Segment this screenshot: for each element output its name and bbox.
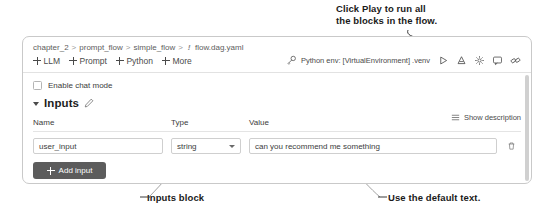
show-description-label: Show description	[464, 113, 521, 122]
yaml-file-icon: !	[186, 42, 192, 53]
share-icon[interactable]	[510, 55, 521, 66]
add-prompt-button[interactable]: Prompt	[69, 56, 107, 66]
toolbar-row: LLM Prompt Python More	[33, 55, 521, 66]
input-type-select[interactable]: string	[171, 138, 241, 154]
breadcrumb-item-chapter[interactable]: chapter_2	[33, 42, 69, 53]
add-input-button[interactable]: Add input	[33, 162, 106, 179]
plus-icon	[162, 57, 170, 65]
key-icon	[286, 55, 297, 66]
chat-icon[interactable]	[492, 55, 503, 66]
inputs-table-header: Name Type Value	[33, 118, 521, 131]
plus-icon	[69, 57, 77, 65]
add-python-label: Python	[126, 56, 152, 66]
settings-icon[interactable]	[474, 55, 485, 66]
breadcrumb-separator: >	[178, 42, 183, 53]
environment-group: Python env: [VirtualEnvironment] .venv	[286, 55, 521, 66]
inputs-table: Name Type Value user_input string can yo…	[33, 118, 521, 179]
annotation-default-text: Use the default text.	[388, 192, 480, 204]
toolbar-icons	[438, 55, 521, 66]
breadcrumb-separator: >	[126, 42, 131, 53]
inputs-section-header[interactable]: Inputs	[33, 97, 521, 109]
input-type-value: string	[177, 142, 197, 151]
input-value-field[interactable]: can you recommend me something	[249, 138, 497, 154]
breadcrumb[interactable]: chapter_2 > prompt_flow > simple_flow > …	[33, 42, 521, 53]
breadcrumb-item-file[interactable]: flow.dag.yaml	[195, 42, 243, 53]
annotation-inputs-block: Inputs block	[147, 192, 204, 204]
trash-icon	[507, 141, 516, 151]
breadcrumb-item-promptflow[interactable]: prompt_flow	[79, 42, 123, 53]
pencil-icon[interactable]	[84, 98, 94, 108]
enable-chat-mode-checkbox[interactable]	[33, 81, 42, 90]
add-more-button[interactable]: More	[162, 56, 192, 66]
add-python-button[interactable]: Python	[116, 56, 153, 66]
column-header-type: Type	[171, 118, 249, 127]
input-name-field[interactable]: user_input	[33, 138, 163, 154]
column-header-name: Name	[33, 118, 171, 127]
delete-row-button[interactable]	[501, 141, 521, 151]
add-input-label: Add input	[59, 166, 93, 175]
chevron-down-icon[interactable]	[33, 102, 39, 106]
python-env-label[interactable]: Python env: [VirtualEnvironment] .venv	[301, 56, 430, 65]
plus-icon	[116, 57, 124, 65]
inputs-section-title: Inputs	[44, 97, 79, 109]
flow-editor-panel: chapter_2 > prompt_flow > simple_flow > …	[22, 36, 532, 184]
plus-icon	[33, 57, 41, 65]
add-llm-button[interactable]: LLM	[33, 56, 60, 66]
debug-icon[interactable]	[456, 55, 467, 66]
breadcrumb-separator: >	[72, 42, 77, 53]
plus-icon	[47, 167, 55, 175]
add-llm-label: LLM	[44, 56, 61, 66]
breadcrumb-item-simpleflow[interactable]: simple_flow	[134, 42, 176, 53]
add-more-label: More	[172, 56, 191, 66]
play-icon[interactable]	[438, 55, 449, 66]
add-prompt-label: Prompt	[80, 56, 107, 66]
vertical-scrollbar[interactable]	[525, 75, 529, 181]
enable-chat-mode-label: Enable chat mode	[48, 81, 113, 90]
add-node-toolbar: LLM Prompt Python More	[33, 56, 192, 66]
show-description-button[interactable]: Show description	[451, 113, 521, 122]
chevron-down-icon	[229, 145, 235, 148]
panel-header: chapter_2 > prompt_flow > simple_flow > …	[23, 37, 531, 72]
panel-body: Enable chat mode Inputs Show description…	[23, 73, 531, 179]
table-row: user_input string can you recommend me s…	[33, 132, 521, 154]
list-icon	[451, 113, 460, 122]
annotation-play: Click Play to run all the blocks in the …	[336, 3, 437, 27]
enable-chat-mode-row[interactable]: Enable chat mode	[33, 81, 521, 90]
